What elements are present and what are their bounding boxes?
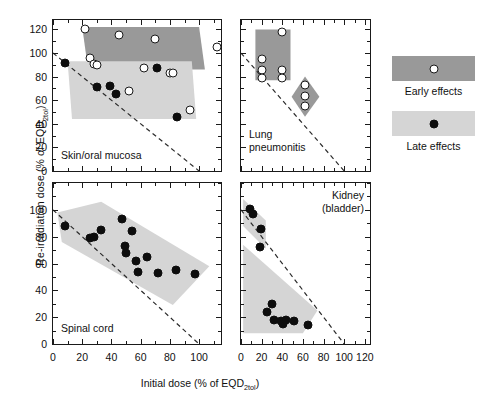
tick-xt-kidney-90 [334, 183, 335, 186]
tick-yr-lung-30 [367, 136, 370, 137]
tick-yr-lung-100 [365, 53, 370, 54]
tick-yr-lung-70 [367, 88, 370, 89]
tick-x-spinal-50 [126, 341, 127, 344]
tick-x-lung-40 [282, 166, 283, 171]
panel-caption-skin: Skin/oral mucosa [61, 149, 142, 162]
tick-xt-lung-80 [324, 20, 325, 25]
y-tick-label-spinal-80: 80 [20, 231, 47, 243]
tick-y-spinal-50 [53, 277, 56, 278]
tick-x-lung-70 [313, 168, 314, 171]
tick-xt-lung-0 [241, 20, 242, 25]
tick-y-spinal-80 [53, 237, 58, 238]
tick-y-kidney-0 [241, 344, 246, 345]
tick-x-lung-30 [272, 168, 273, 171]
tick-y-spinal-40 [53, 290, 58, 291]
tick-y-kidney-80 [241, 237, 246, 238]
data-point-kidney-late-5 [262, 307, 271, 316]
data-point-spinal-late-8 [132, 256, 141, 265]
tick-yr-lung-10 [367, 159, 370, 160]
tick-y-skin-100 [53, 53, 58, 54]
tick-y-lung-10 [241, 159, 244, 160]
tick-x-kidney-70 [313, 341, 314, 344]
tick-xt-kidney-40 [282, 183, 283, 188]
tick-x-kidney-0 [241, 339, 242, 344]
tick-x-spinal-40 [111, 339, 112, 344]
tick-xt-lung-50 [293, 20, 294, 23]
tick-y-spinal-100 [53, 210, 58, 211]
tick-x-lung-100 [344, 166, 345, 171]
data-point-spinal-late-9 [133, 267, 142, 276]
y-tick-label-spinal-60: 60 [20, 258, 47, 270]
x-tick-label-kidney-100: 100 [335, 351, 353, 363]
tick-xt-skin-20 [82, 20, 83, 25]
tick-x-lung-60 [303, 166, 304, 171]
tick-yr-kidney-30 [367, 304, 370, 305]
tick-xt-lung-30 [272, 20, 273, 23]
tick-yr-kidney-120 [367, 183, 370, 184]
tick-y-lung-20 [241, 147, 246, 148]
tick-y-lung-120 [241, 29, 246, 30]
plot-area-spinal: Spinal cord [53, 183, 221, 344]
data-point-spinal-late-10 [142, 252, 151, 261]
tick-yr-skin-10 [218, 159, 221, 160]
y-tick-label-spinal-0: 0 [20, 338, 47, 350]
tick-x-spinal-110 [214, 341, 215, 344]
tick-x-lung-120 [365, 166, 366, 171]
tick-y-kidney-10 [241, 331, 244, 332]
tick-x-spinal-70 [155, 341, 156, 344]
tick-y-skin-0 [53, 171, 58, 172]
tick-yr-skin-80 [216, 77, 221, 78]
legend-marker-filled-circle [429, 119, 438, 128]
tick-yr-spinal-60 [216, 264, 221, 265]
tick-x-skin-20 [82, 166, 83, 171]
tick-y-lung-100 [241, 53, 246, 54]
data-point-skin-early-5 [125, 86, 134, 95]
tick-xt-skin-30 [97, 20, 98, 23]
tick-xt-kidney-60 [303, 183, 304, 188]
tick-xt-spinal-70 [155, 183, 156, 186]
tick-yr-kidney-80 [365, 237, 370, 238]
x-tick-label-kidney-60: 60 [297, 351, 309, 363]
tick-yr-kidney-100 [365, 210, 370, 211]
tick-y-spinal-110 [53, 196, 56, 197]
tick-x-kidney-10 [251, 341, 252, 344]
tick-x-lung-80 [324, 166, 325, 171]
tick-xt-kidney-80 [324, 183, 325, 188]
tick-xt-spinal-90 [185, 183, 186, 186]
tick-xt-skin-60 [141, 20, 142, 25]
data-point-lung-early-0 [257, 54, 266, 63]
tick-yr-kidney-90 [367, 223, 370, 224]
tick-xt-lung-110 [355, 20, 356, 23]
tick-yr-kidney-110 [367, 196, 370, 197]
data-point-spinal-late-12 [171, 266, 180, 275]
tick-x-kidney-90 [334, 341, 335, 344]
tick-xt-skin-10 [68, 20, 69, 23]
legend-swatch-late [392, 111, 475, 136]
tick-x-spinal-60 [141, 339, 142, 344]
panel-caption-lung: Lung pneumonitis [249, 128, 306, 153]
x-axis-label: Initial dose (% of EQD2tol) [0, 377, 400, 392]
figure-root: Re-irradiation dose (% of EQD2tol) Initi… [0, 0, 481, 400]
tick-yr-spinal-50 [218, 277, 221, 278]
data-point-kidney-late-3 [255, 243, 264, 252]
data-point-spinal-late-0 [60, 221, 69, 230]
tick-xt-skin-40 [111, 20, 112, 25]
data-point-spinal-late-4 [117, 215, 126, 224]
tick-y-skin-120 [53, 29, 58, 30]
tick-yr-lung-0 [365, 171, 370, 172]
x-tick-label-spinal-20: 20 [76, 351, 88, 363]
data-point-spinal-late-13 [190, 270, 199, 279]
tick-x-kidney-120 [365, 339, 366, 344]
tick-xt-skin-100 [199, 20, 200, 25]
tick-x-skin-90 [185, 168, 186, 171]
tick-xt-lung-100 [344, 20, 345, 25]
tick-xt-lung-20 [262, 20, 263, 25]
tick-xt-spinal-60 [141, 183, 142, 188]
tick-y-kidney-90 [241, 223, 244, 224]
legend-label-early: Early effects [386, 85, 481, 97]
tick-y-spinal-60 [53, 264, 58, 265]
panel-spinal-cord: Spinal cord [52, 182, 222, 345]
tick-yr-lung-40 [365, 124, 370, 125]
tick-x-kidney-40 [282, 339, 283, 344]
tick-xt-spinal-110 [214, 183, 215, 186]
